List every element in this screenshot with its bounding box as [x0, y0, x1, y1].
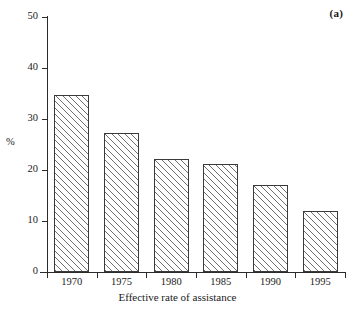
- x-axis-tick-label: 1970: [47, 276, 97, 287]
- x-axis-line: [40, 272, 346, 273]
- x-axis-tick-label: 1975: [97, 276, 147, 287]
- x-axis-title: Effective rate of assistance: [0, 291, 355, 303]
- bar: [54, 95, 89, 272]
- y-axis-tick: [42, 68, 47, 69]
- x-axis-tick-label: 1985: [196, 276, 246, 287]
- y-axis-tick: [42, 17, 47, 18]
- bar: [104, 133, 139, 272]
- y-axis-tick-label: 0: [14, 265, 38, 276]
- bar: [253, 185, 288, 272]
- x-axis-tick-label: 1995: [295, 276, 345, 287]
- y-axis-line: [47, 16, 48, 273]
- y-axis-tick-label: 40: [14, 61, 38, 72]
- bar: [154, 159, 189, 272]
- y-axis-tick: [42, 221, 47, 222]
- panel-label: (a): [330, 7, 343, 19]
- x-axis-tick-label: 1980: [146, 276, 196, 287]
- bar: [203, 164, 238, 272]
- bar: [303, 211, 338, 272]
- y-axis-tick-label: 50: [14, 10, 38, 21]
- y-axis-title: %: [6, 136, 15, 147]
- y-axis-tick: [42, 119, 47, 120]
- x-axis-tick: [345, 273, 346, 278]
- y-axis-tick-label: 30: [14, 112, 38, 123]
- y-axis-tick-label: 20: [14, 163, 38, 174]
- y-axis-tick-label: 10: [14, 214, 38, 225]
- bar-chart-figure: (a) 01020304050 197019751980198519901995…: [0, 0, 355, 311]
- y-axis-tick: [42, 170, 47, 171]
- x-axis-tick-label: 1990: [246, 276, 296, 287]
